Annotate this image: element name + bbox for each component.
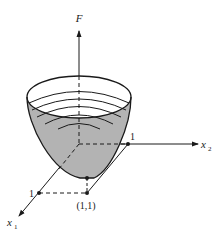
x1-unit-point <box>37 191 41 195</box>
svg-text:1: 1 <box>14 223 18 231</box>
svg-text:2: 2 <box>208 145 212 153</box>
svg-text:x: x <box>6 216 12 228</box>
x1-tick-label: 1 <box>29 188 34 199</box>
minimum-point-label: (1,1) <box>76 200 95 212</box>
svg-text:x: x <box>200 138 206 150</box>
x1-axis-label: x 1 <box>6 216 18 231</box>
surface-minimum-point <box>85 176 89 180</box>
f-axis-label: F <box>75 12 83 24</box>
paraboloid-figure: F x 2 1 x 1 1 (1,1) <box>0 0 223 234</box>
x2-unit-point <box>126 142 130 146</box>
x2-axis-label: x 2 <box>200 138 212 153</box>
x2-tick-label: 1 <box>130 131 135 142</box>
minimum-projection-point <box>85 191 89 195</box>
